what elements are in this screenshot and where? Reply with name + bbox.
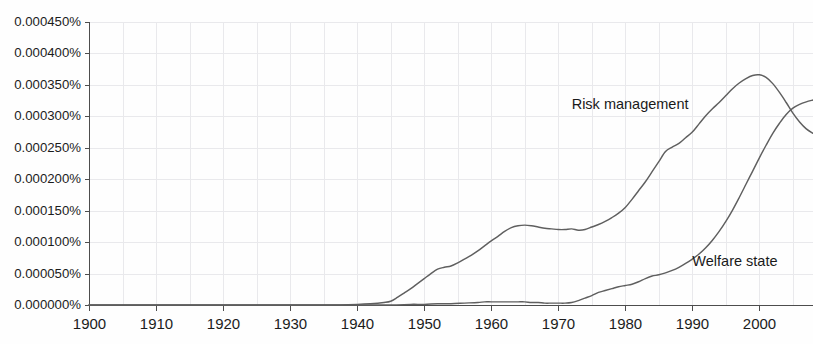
x-axis-tick-label: 1970 [542, 315, 575, 332]
y-axis-tick-label: 0.000400% [14, 45, 81, 60]
ngram-line-chart: 0.000000%0.000050%0.000100%0.000150%0.00… [0, 0, 813, 344]
x-axis-tick-label: 1940 [341, 315, 374, 332]
x-axis-tick-label: 1950 [408, 315, 441, 332]
x-axis-tick-label: 1900 [73, 315, 106, 332]
y-axis-tick-label: 0.000300% [14, 108, 81, 123]
y-axis-tick-label: 0.000100% [14, 234, 81, 249]
x-axis-tick-label: 2000 [743, 315, 776, 332]
x-axis-tick-label: 1920 [207, 315, 240, 332]
y-axis-tick-label: 0.000000% [14, 297, 81, 312]
y-axis-tick-label: 0.000450% [14, 14, 81, 29]
series-line-risk-management [89, 75, 813, 305]
y-axis-tick-labels: 0.000000%0.000050%0.000100%0.000150%0.00… [14, 14, 81, 312]
x-axis-tick-label: 1910 [140, 315, 173, 332]
ngram-chart-page: 0.000000%0.000050%0.000100%0.000150%0.00… [0, 0, 813, 344]
x-axis-tick-label: 1960 [475, 315, 508, 332]
series-label-welfare-state: Welfare state [692, 253, 777, 269]
y-axis-tick-label: 0.000150% [14, 203, 81, 218]
x-axis-tick-labels: 1900191019201930194019501960197019801990… [73, 315, 776, 332]
data-series [89, 75, 813, 305]
x-axis-tick-label: 1990 [676, 315, 709, 332]
y-axis-tick-label: 0.000200% [14, 171, 81, 186]
series-label-risk-management: Risk management [572, 96, 689, 112]
y-axis-tick-label: 0.000350% [14, 77, 81, 92]
y-axis-tick-label: 0.000050% [14, 266, 81, 281]
x-axis-tick-label: 1930 [274, 315, 307, 332]
y-axis-tick-label: 0.000250% [14, 140, 81, 155]
x-axis-tick-label: 1980 [609, 315, 642, 332]
